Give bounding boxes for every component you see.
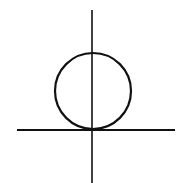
diagram-canvas bbox=[0, 0, 185, 183]
tangent-circle bbox=[55, 53, 131, 129]
